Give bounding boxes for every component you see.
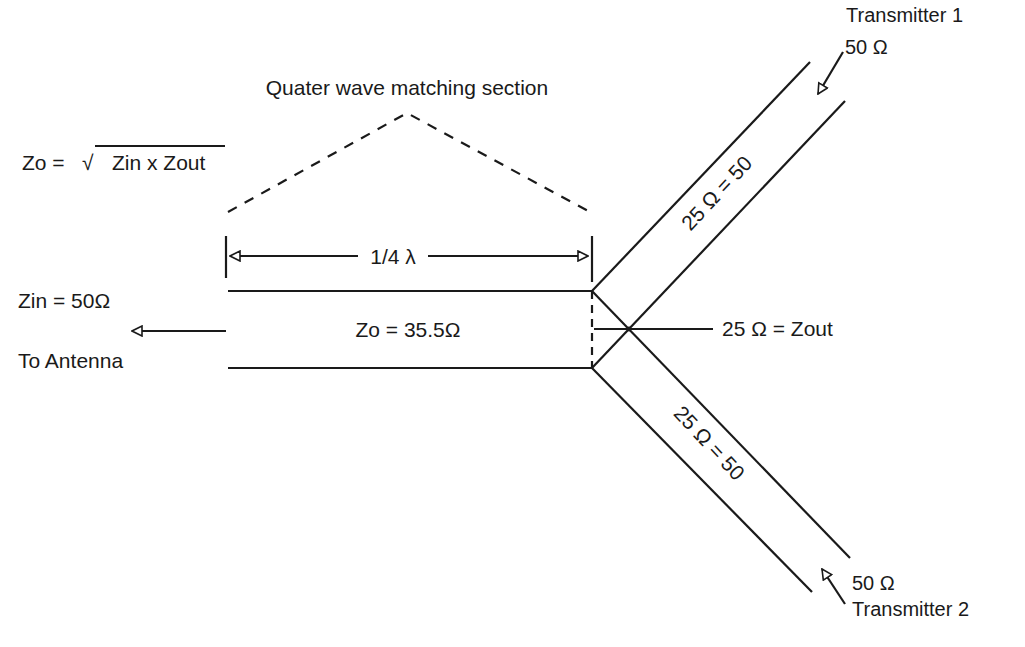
quarter-wave-dimension: 1/4 λ [226, 236, 592, 282]
transmitter-2-impedance: 50 Ω [852, 572, 895, 594]
to-antenna-label: To Antenna [18, 349, 123, 372]
transmitter-1-name: Transmitter 1 [846, 4, 963, 26]
transmitter-2-name: Transmitter 2 [852, 598, 969, 620]
formula-lhs: Zo = [22, 151, 65, 174]
upper-branch-outer-conductor [592, 62, 810, 291]
zo-value-label: Zo = 35.5Ω [355, 318, 460, 341]
transmitter-1-impedance: 50 Ω [845, 36, 888, 58]
section-bracket [228, 113, 590, 212]
diagram-canvas: Quater wave matching section Zo = √ Zin … [0, 0, 1025, 647]
transmitter-1-annotation: Transmitter 1 50 Ω [818, 4, 963, 94]
upper-branch-label: 25 Ω = 50 [677, 151, 757, 234]
zin-label: Zin = 50Ω [18, 289, 110, 312]
zout-label: 25 Ω = Zout [722, 317, 833, 340]
transmitter-2-annotation: 50 Ω Transmitter 2 [822, 569, 969, 620]
lower-branch-outer-conductor [592, 368, 812, 592]
formula-radical: √ [82, 151, 94, 174]
formula-rhs: Zin x Zout [112, 151, 206, 174]
transmitter-1-arrow-icon [818, 52, 843, 94]
impedance-formula: Zo = √ Zin x Zout [22, 146, 225, 174]
junction-point [627, 327, 632, 332]
transmitter-2-arrow-icon [822, 569, 845, 604]
dimension-label: 1/4 λ [370, 245, 416, 268]
section-title: Quater wave matching section [266, 76, 548, 99]
